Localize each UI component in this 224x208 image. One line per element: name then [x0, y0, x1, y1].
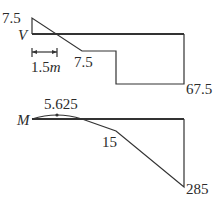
shear-right-value: 67.5: [186, 81, 212, 97]
shear-mid-value: 7.5: [74, 54, 93, 70]
moment-outline: [82, 119, 184, 187]
dimension-label: 1.5m: [31, 59, 61, 75]
shear-force-diagram: 7.5 V 7.5 67.5 1.5m: [2, 10, 212, 97]
moment-mid-value: 15: [102, 134, 117, 150]
dimension-marker: 1.5m: [31, 48, 61, 75]
moment-peak-point: [55, 113, 58, 116]
moment-right-value: 285: [186, 181, 209, 197]
moment-peak-value: 5.625: [44, 96, 78, 112]
moment-symbol: M: [16, 112, 31, 128]
bending-moment-diagram: M 5.625 15 285: [16, 96, 209, 197]
shear-left-value: 7.5: [2, 10, 21, 26]
shear-symbol: V: [18, 27, 29, 43]
beam-diagrams: 7.5 V 7.5 67.5 1.5m M 5.625 15 285: [0, 0, 224, 208]
